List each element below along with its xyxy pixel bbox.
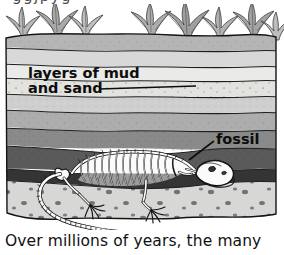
figure-caption: Over millions of years, the many xyxy=(5,232,284,251)
layers-label-line1: layers of mud xyxy=(28,65,140,81)
fossil-cross-section-illustration: layers of mud and sand fossil xyxy=(0,4,284,230)
page-root: ggjpyg xyxy=(0,0,284,255)
sediment-layers xyxy=(0,24,284,230)
layers-label-line2: and sand xyxy=(28,80,103,96)
fossil-label: fossil xyxy=(216,131,259,147)
fossil-diagram-figure: layers of mud and sand fossil xyxy=(0,4,284,230)
